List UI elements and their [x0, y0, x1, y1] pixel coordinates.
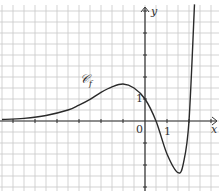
- curve-label: 𝒞f: [80, 73, 92, 88]
- x-unit-label: 1: [164, 126, 171, 137]
- y-axis-label: y: [151, 6, 157, 17]
- y-unit-label: 1: [136, 93, 143, 104]
- curve-cf: [2, 4, 195, 173]
- function-graph: [0, 0, 219, 191]
- curve-label-sub: f: [89, 79, 92, 88]
- curve-label-main: 𝒞: [80, 72, 89, 86]
- grid-lines: [0, 5, 219, 191]
- x-axis-label: x: [211, 124, 217, 135]
- origin-label: 0: [136, 124, 143, 135]
